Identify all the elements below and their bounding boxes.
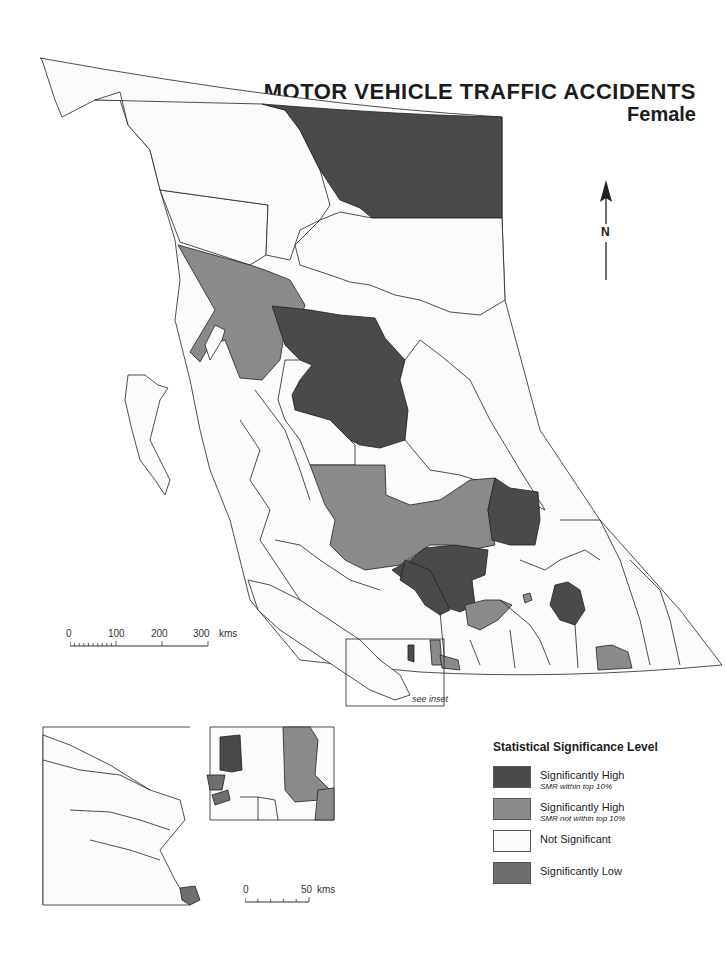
legend-swatch (493, 830, 531, 852)
inset-scale-tick-0: 0 (243, 884, 249, 895)
legend-label: Not Significant (540, 833, 611, 845)
scale-tick-0: 0 (66, 628, 72, 639)
legend-swatch (493, 798, 531, 820)
legend-label: Significantly High (540, 769, 624, 781)
legend-item-not-significant: Not Significant (493, 830, 713, 862)
scale-tick-200: 200 (151, 628, 168, 639)
inset-region-sig-high-top10 (220, 735, 242, 772)
legend: Statistical Significance Level Significa… (493, 740, 713, 894)
scale-tick-300: 300 (193, 628, 210, 639)
north-label: N (601, 225, 610, 239)
scale-unit: kms (219, 628, 237, 639)
legend-sublabel: SMR within top 10% (540, 781, 624, 793)
inset-scale-line (245, 896, 311, 904)
north-arrow: N (598, 180, 618, 280)
legend-swatch (493, 766, 531, 788)
legend-item-sig-low: Significantly Low (493, 862, 713, 894)
scale-tick-100: 100 (108, 628, 125, 639)
legend-title: Statistical Significance Level (493, 740, 713, 754)
inset-scale-bar: 0 50 kms (243, 884, 343, 908)
scale-bar-line (70, 640, 210, 648)
inset-map (43, 727, 334, 905)
haida-gwaii (125, 375, 170, 495)
legend-label: Significantly High (540, 801, 624, 813)
main-scale-bar: 0 100 200 300 kms (66, 628, 296, 658)
legend-item-sig-high-top10: Significantly High SMR within top 10% (493, 766, 713, 798)
inset-region-sig-low (207, 775, 225, 790)
see-inset-label: see inset (412, 694, 448, 704)
legend-swatch (493, 862, 531, 884)
inset-region-sig-high (315, 788, 334, 820)
legend-label: Significantly Low (540, 865, 622, 877)
legend-sublabel: SMR not within top 10% (540, 813, 625, 825)
legend-item-sig-high: Significantly High SMR not within top 10… (493, 798, 713, 830)
inset-scale-unit: kms (317, 884, 335, 895)
inset-scale-tick-50: 50 (301, 884, 312, 895)
